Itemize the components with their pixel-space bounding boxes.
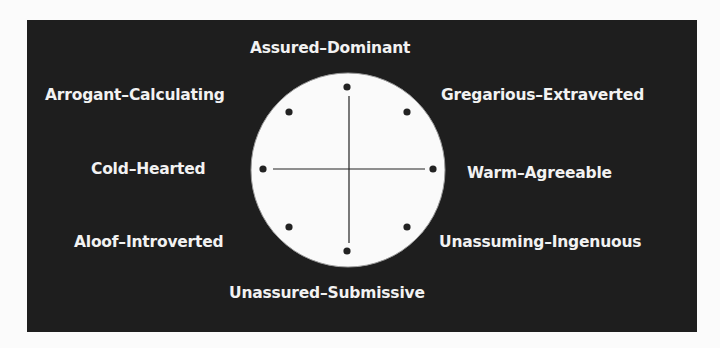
dot-right [429,165,436,172]
label-cold-hearted: Cold–Hearted [91,162,205,178]
dot-left [259,165,266,172]
label-warm-agreeable: Warm–Agreeable [467,166,612,182]
label-arrogant-calculating: Arrogant–Calculating [45,88,225,104]
label-gregarious-extraverted: Gregarious–Extraverted [441,88,644,104]
dot-top-left [285,108,292,115]
label-unassuming-ingenuous: Unassuming–Ingenuous [439,235,641,251]
dot-bottom-right [403,223,410,230]
label-assured-dominant: Assured–Dominant [250,41,410,57]
dot-top-right [403,108,410,115]
circle [251,73,445,267]
dot-bottom-left [285,223,292,230]
dot-top [343,83,350,90]
label-unassured-submissive: Unassured–Submissive [229,286,425,302]
dot-bottom [343,247,350,254]
label-aloof-introverted: Aloof–Introverted [74,235,223,251]
